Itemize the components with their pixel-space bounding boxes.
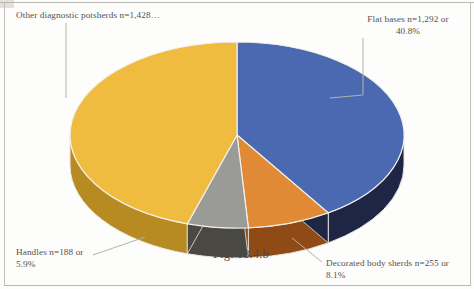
pie-top-faces <box>70 42 404 228</box>
slice-label-other-diagnostic-potsherds: Other diagnostic potsherds n=1,428… <box>16 10 160 22</box>
slice-label-handles: Handles n=188 or 5.9% <box>16 247 120 270</box>
figure-caption: Fig. 18.4.b <box>186 247 296 262</box>
pie-chart-svg <box>0 0 474 289</box>
figure-page: Other diagnostic potsherds n=1,428… Flat… <box>0 0 474 289</box>
slice-label-flat-bases: Flat bases n=1,292 or 40.8% <box>352 14 464 37</box>
slice-label-decorated-body-sherds: Decorated body sherds n=255 or 8.1% <box>326 258 471 281</box>
pie-chart <box>0 0 474 289</box>
